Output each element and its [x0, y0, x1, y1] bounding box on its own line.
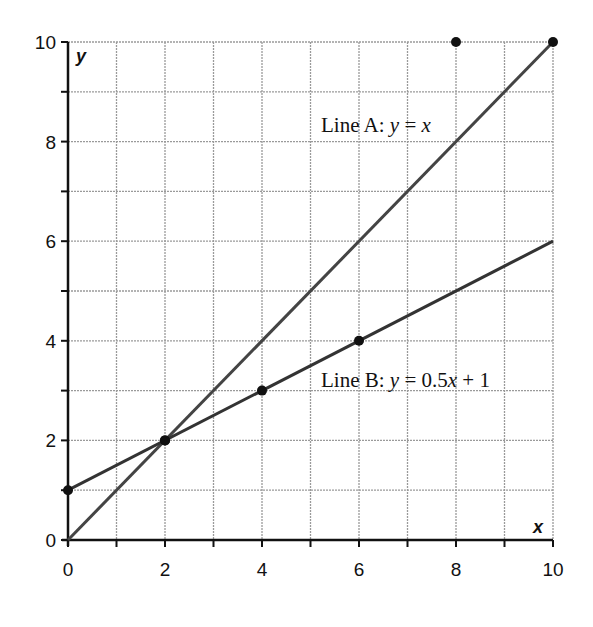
- y-tick-label: 10: [35, 32, 56, 53]
- data-point: [160, 435, 170, 445]
- x-tick-label: 2: [160, 559, 171, 580]
- line-b-label-prefix: Line B:: [321, 368, 390, 392]
- line-b-label: Line B: y = 0.5x + 1: [321, 368, 490, 392]
- data-point: [63, 485, 73, 495]
- x-tick-label: 4: [257, 559, 268, 580]
- x-tick-label: 6: [354, 559, 365, 580]
- line-a-label-eq: =: [399, 113, 421, 137]
- line-b-label-eq: = 0.5: [399, 368, 448, 392]
- x-tick-label: 0: [63, 559, 74, 580]
- line-chart: 02468100246810 x y Line A: y = x Line B:…: [0, 0, 593, 627]
- data-point: [354, 336, 364, 346]
- x-tick-label: 10: [542, 559, 563, 580]
- y-tick-label: 8: [45, 132, 56, 153]
- y-tick-label: 6: [45, 231, 56, 252]
- y-axis-title: y: [75, 46, 87, 66]
- line-b-label-tail: + 1: [457, 368, 490, 392]
- line-a-label-y: y: [388, 113, 400, 137]
- line-a-label: Line A: y = x: [321, 113, 432, 137]
- y-tick-label: 2: [45, 430, 56, 451]
- y-tick-label: 0: [45, 530, 56, 551]
- y-tick-label: 4: [45, 331, 56, 352]
- data-point: [257, 386, 267, 396]
- line-a-label-prefix: Line A:: [321, 113, 390, 137]
- data-point: [548, 37, 558, 47]
- line-a-label-x: x: [421, 113, 432, 137]
- x-axis-title: x: [532, 517, 544, 537]
- line-b-label-y: y: [388, 368, 400, 392]
- data-point: [451, 37, 461, 47]
- x-tick-label: 8: [451, 559, 462, 580]
- series-line-line-b: [68, 241, 553, 490]
